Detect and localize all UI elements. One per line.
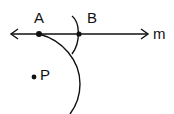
label-b: B xyxy=(87,9,97,26)
label-m: m xyxy=(153,25,166,42)
point-a xyxy=(36,31,42,37)
diagram-canvas: A B P m xyxy=(0,0,174,114)
label-p: P xyxy=(40,66,50,83)
label-a: A xyxy=(34,9,44,26)
point-p xyxy=(32,75,37,80)
point-b xyxy=(76,31,81,36)
